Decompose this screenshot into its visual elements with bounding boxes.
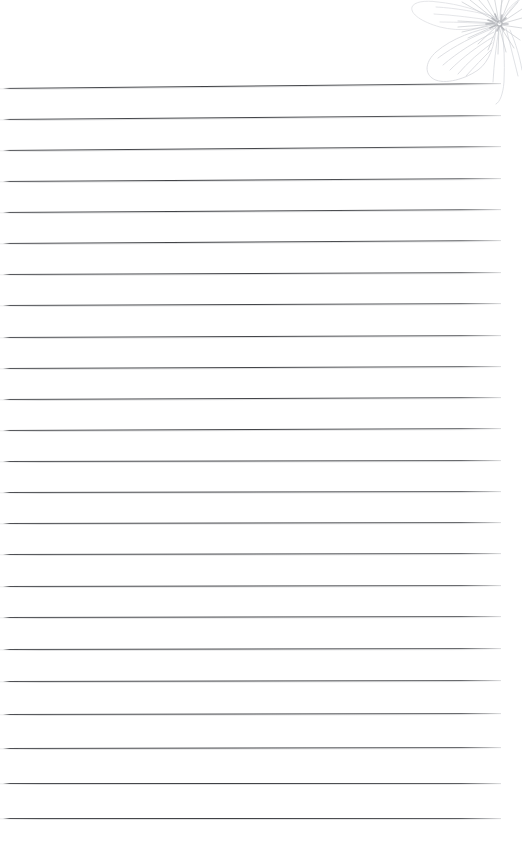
rule-line [0,747,501,749]
rule-line [0,460,501,462]
rule-line [0,209,501,213]
rule-line [0,783,501,784]
rule-line [0,616,501,618]
rule-line [0,335,501,338]
rule-line [0,680,501,682]
flower-sketch-icon [400,0,522,112]
rule-line [0,178,501,182]
rule-line [0,818,501,819]
lined-paper-page [0,0,522,867]
rule-line [0,115,501,120]
rule-line [0,272,501,275]
ruled-lines-group [0,0,522,867]
rule-line [0,648,501,650]
rule-line [0,83,501,89]
rule-line [0,491,501,493]
rule-line [0,397,501,400]
rule-line [0,366,501,369]
rule-line [0,585,501,587]
rule-line [0,240,501,244]
rule-line [0,146,501,151]
rule-line [0,522,501,524]
rule-line [0,553,501,555]
rule-line [0,713,501,715]
rule-line [0,428,501,431]
rule-line [0,303,501,306]
